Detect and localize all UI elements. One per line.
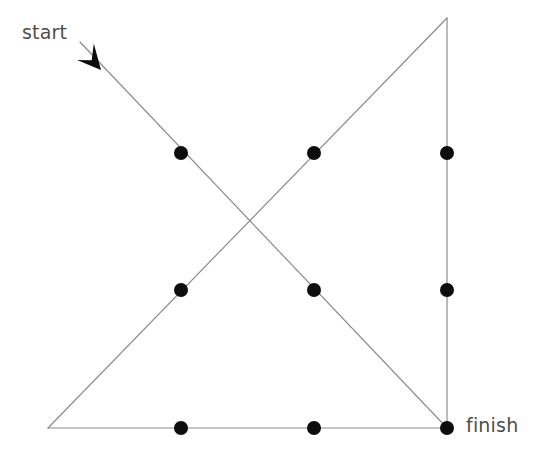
node-point-n2 <box>307 146 321 160</box>
start-arrowhead-icon <box>77 43 101 70</box>
node-point-n9 <box>440 421 454 435</box>
node-point-n8 <box>307 421 321 435</box>
node-point-n4 <box>174 283 188 297</box>
diagram-canvas: start finish <box>0 0 547 457</box>
node-point-n7 <box>174 421 188 435</box>
start-label: start <box>22 21 67 43</box>
edge-ascending-hypotenuse <box>48 18 447 428</box>
node-point-n1 <box>174 146 188 160</box>
node-point-n3 <box>440 146 454 160</box>
node-point-n6 <box>440 283 454 297</box>
start-arrowhead-group <box>77 43 101 70</box>
triangle-path-figure <box>0 0 547 457</box>
node-point-n5 <box>307 283 321 297</box>
edges-group <box>48 18 447 428</box>
finish-label: finish <box>466 414 518 436</box>
edge-descending-diagonal-start-to-finish <box>80 42 447 428</box>
